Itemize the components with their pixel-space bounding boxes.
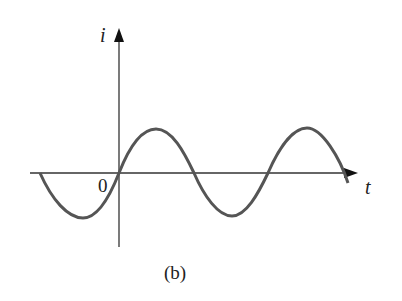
origin-label: 0 [98, 175, 108, 197]
y-axis-arrow-icon [114, 28, 124, 42]
figure-caption: (b) [164, 262, 186, 284]
y-axis-label: i [100, 24, 106, 47]
sinusoid-diagram [0, 0, 402, 301]
x-axis-label: t [365, 176, 371, 199]
